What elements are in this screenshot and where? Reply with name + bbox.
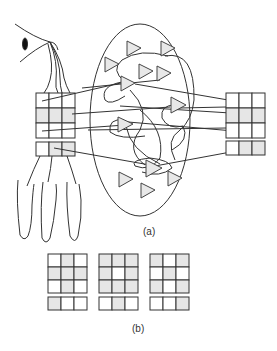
eye-icon bbox=[15, 24, 70, 93]
pattern-grid-2 bbox=[99, 254, 138, 310]
left-input-grid bbox=[36, 93, 75, 156]
pattern-grid-3 bbox=[150, 254, 189, 310]
pattern-grid-1 bbox=[48, 254, 87, 310]
diagram-canvas bbox=[0, 0, 277, 351]
hand-icon bbox=[17, 156, 81, 242]
caption-b: (b) bbox=[132, 323, 144, 334]
caption-a: (a) bbox=[143, 226, 155, 237]
right-output-grid bbox=[226, 93, 265, 155]
